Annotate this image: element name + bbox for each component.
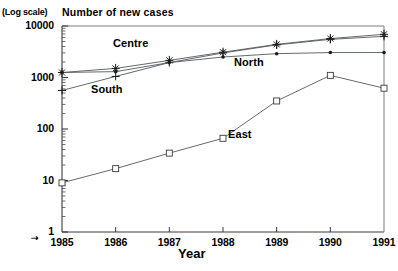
chart-plot-area — [0, 0, 398, 271]
series-label-east: East — [228, 128, 252, 140]
data-point-north-1990 — [329, 51, 333, 55]
data-point-south-1986 — [112, 72, 120, 80]
data-point-east-1991 — [381, 85, 387, 91]
x-axis-ticks — [116, 227, 331, 232]
series-label-south: South — [91, 83, 123, 95]
data-point-north-1989 — [275, 52, 279, 56]
x-tick-label: 1988 — [201, 236, 245, 248]
data-point-east-1987 — [166, 150, 172, 156]
data-point-east-1988 — [220, 135, 226, 141]
x-tick-label: 1985 — [40, 236, 84, 248]
x-tick-label: 1991 — [362, 236, 398, 248]
y-tick-label: 1000 — [2, 71, 54, 83]
log-scale-note: (Log scale) — [2, 7, 47, 17]
y-axis-ticks — [62, 26, 68, 232]
series-layer — [58, 30, 388, 186]
data-point-east-1986 — [113, 166, 119, 172]
chart-title: Number of new cases — [62, 6, 174, 18]
data-point-south-1990 — [326, 35, 334, 43]
x-tick-label: 1990 — [308, 236, 352, 248]
data-point-north-1988 — [221, 55, 225, 59]
x-axis-title: Year — [178, 246, 205, 261]
x-tick-label: 1989 — [255, 236, 299, 248]
y-tick-label: 10 — [2, 174, 54, 186]
data-point-north-1991 — [382, 51, 386, 55]
data-point-east-1990 — [327, 72, 333, 78]
chart-container: (Log scale) Number of new cases Year ⇢ 1… — [0, 0, 398, 271]
data-point-north-1986 — [114, 70, 118, 74]
series-label-centre: Centre — [113, 37, 148, 49]
data-point-north-1987 — [168, 61, 172, 65]
y-tick-label: 10000 — [2, 19, 54, 31]
x-tick-label: 1986 — [94, 236, 138, 248]
series-label-north: North — [234, 56, 264, 68]
x-tick-label: 1987 — [147, 236, 191, 248]
data-point-south-1991 — [380, 32, 388, 40]
data-point-east-1989 — [274, 98, 280, 104]
y-tick-label: 100 — [2, 122, 54, 134]
data-point-north-1985 — [60, 71, 64, 75]
data-point-east-1985 — [59, 180, 65, 186]
